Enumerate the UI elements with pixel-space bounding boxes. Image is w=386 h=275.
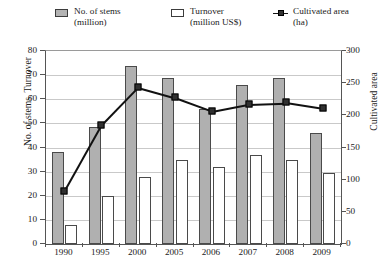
line-segment <box>286 102 323 109</box>
line-segment <box>64 125 102 191</box>
line-segment <box>138 87 175 99</box>
y-tick-label-right: 200 <box>346 109 380 119</box>
y-tick-label-right: 50 <box>346 206 380 216</box>
y-tick-label-left: 70 <box>7 69 37 79</box>
line-segment <box>212 104 249 113</box>
line-marker <box>208 107 215 114</box>
line-segment <box>101 87 139 126</box>
legend-label-turnover: Turnover (million US$) <box>190 6 241 28</box>
y-tick-label-left: 30 <box>7 166 37 176</box>
y-tick-label-right: 0 <box>346 238 380 248</box>
y-tick-label-left: 40 <box>7 142 37 152</box>
line-marker <box>282 99 289 106</box>
legend-item-stems: No. of stems (million) <box>53 6 121 28</box>
line-marker <box>98 121 105 128</box>
y-tick-label-right: 100 <box>346 174 380 184</box>
grey-filled-rect-icon <box>53 6 69 20</box>
y-tick-label-right: 250 <box>346 77 380 87</box>
y-tick-label-left: 20 <box>7 190 37 200</box>
y-tick-label-right: 300 <box>346 45 380 55</box>
legend-item-turnover: Turnover (million US$) <box>169 6 241 28</box>
line-series-layer <box>46 51 341 244</box>
white-outlined-rect-icon <box>169 6 185 20</box>
y-tick-label-left: 60 <box>7 93 37 103</box>
line-marker <box>135 84 142 91</box>
line-marker-icon <box>272 6 288 20</box>
chart-container: No. of stems (million) Turnover (million… <box>0 0 386 275</box>
y-tick-label-right: 150 <box>346 142 380 152</box>
y-axis-title-right: Cultivated area <box>368 7 379 197</box>
line-marker <box>245 100 252 107</box>
legend-label-stems: No. of stems (million) <box>74 6 121 28</box>
line-marker <box>61 187 68 194</box>
plot-area <box>45 50 342 245</box>
y-tick-label-left: 50 <box>7 117 37 127</box>
y-tick-label-left: 80 <box>7 45 37 55</box>
legend-item-cultivated-area: Cultivated area (ha) <box>272 6 349 28</box>
y-tick-label-left: 0 <box>7 238 37 248</box>
legend-label-cultivated-area: Cultivated area (ha) <box>293 6 349 28</box>
line-segment <box>175 97 212 112</box>
y-tick-label-left: 10 <box>7 214 37 224</box>
x-tick-label: 2009 <box>299 247 345 257</box>
line-marker <box>319 105 326 112</box>
line-marker <box>172 94 179 101</box>
chart-legend: No. of stems (million) Turnover (million… <box>0 6 386 44</box>
line-segment <box>249 102 286 105</box>
